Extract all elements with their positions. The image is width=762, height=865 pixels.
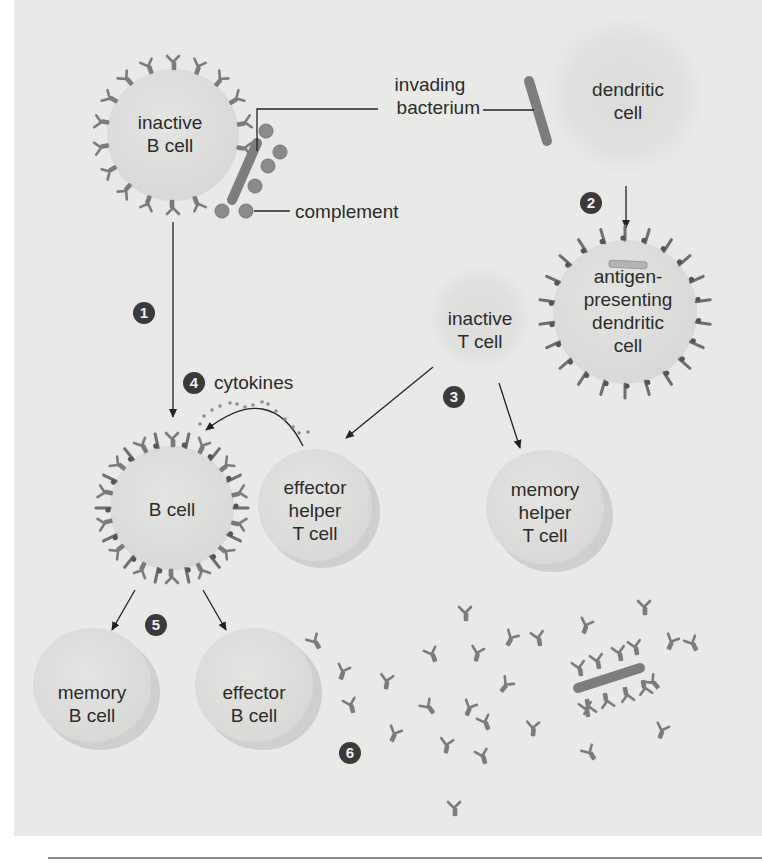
step-5-badge: 5	[145, 614, 167, 636]
antibody-coated-bacterium	[572, 640, 652, 714]
label-effector-helper-t-cell: effector helper T cell	[265, 476, 365, 545]
bottom-rule	[48, 857, 762, 859]
label-b-cell: B cell	[122, 498, 222, 521]
label-invading-bacterium: invading bacterium	[380, 73, 480, 119]
step-2-badge: 2	[580, 192, 602, 214]
arrow-to-effector-helper	[346, 367, 433, 438]
label-antigen-presenting-dendritic-cell: antigen- presenting dendritic cell	[573, 265, 683, 357]
step-3-badge: 3	[443, 386, 465, 408]
label-complement: complement	[295, 200, 399, 223]
label-inactive-t-cell: inactive T cell	[430, 307, 530, 353]
label-inactive-b-cell: inactive B cell	[120, 111, 220, 157]
invading-bacterium	[483, 81, 547, 141]
label-effector-b-cell: effector B cell	[204, 681, 304, 727]
label-dendritic-cell: dendritic cell	[578, 78, 678, 124]
arrow-to-memory-b	[112, 590, 135, 630]
step-1-badge: 1	[133, 302, 155, 324]
free-antibodies	[306, 601, 700, 815]
label-cytokines: cytokines	[214, 371, 293, 394]
step-4-badge: 4	[183, 372, 205, 394]
diagram-artwork	[0, 0, 762, 865]
label-memory-helper-t-cell: memory helper T cell	[495, 478, 595, 547]
step-6-badge: 6	[339, 742, 361, 764]
arrow-to-memory-helper	[499, 383, 520, 448]
cytokine-signal	[198, 400, 310, 446]
label-memory-b-cell: memory B cell	[42, 681, 142, 727]
arrow-to-effector-b	[203, 590, 226, 630]
